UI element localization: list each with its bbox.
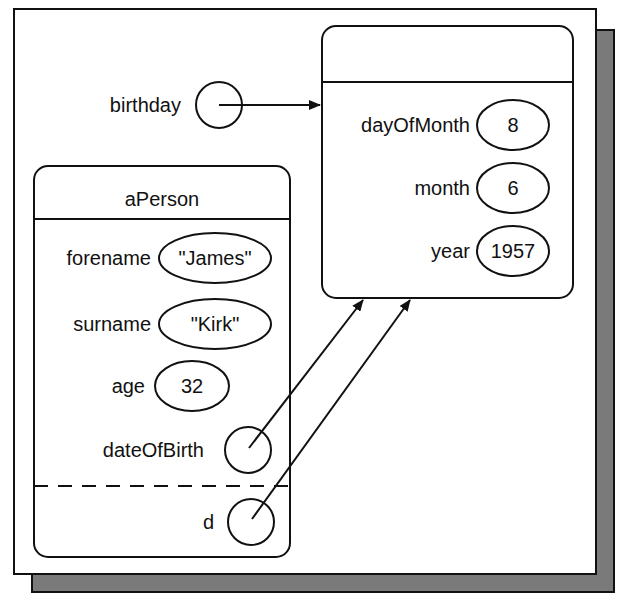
field-value-forename: "James" [178,247,251,269]
field-label-dateofbirth: dateOfBirth [103,439,204,461]
field-label-surname: surname [73,313,151,335]
person-object-title: aPerson [125,188,200,210]
birthday-label: birthday [110,94,181,116]
field-value-age: 32 [181,375,203,397]
field-label-age: age [112,375,145,397]
field-label-dayofmonth: dayOfMonth [361,114,470,136]
field-label-forename: forename [67,247,152,269]
field-value-year: 1957 [491,240,536,262]
field-value-dayofmonth: 8 [507,114,518,136]
field-label-month: month [414,177,470,199]
field-value-month: 6 [507,177,518,199]
person-object: aPerson forename "James" surname "Kirk" … [34,166,290,557]
field-label-d: d [203,511,214,533]
date-object: dayOfMonth 8 month 6 year 1957 [322,26,573,298]
field-label-year: year [431,240,470,262]
diagram-canvas: birthday dayOfMonth 8 month 6 year 1957 … [0,0,618,611]
field-value-surname: "Kirk" [191,313,240,335]
